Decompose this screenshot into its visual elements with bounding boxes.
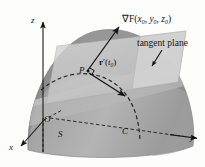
gradient-label: ∇F(x0, y0, z0) [122, 15, 171, 26]
origin-label: O [44, 115, 51, 124]
gradient-symbol: ∇F [122, 14, 134, 24]
tangent-plane-diagram: z y x O S C P ∇F(x0, y0, z0) tangent pla… [0, 0, 205, 167]
point-label-p: P [79, 66, 85, 75]
axis-label-y: y [190, 133, 194, 142]
curve-label-c: C [122, 127, 128, 136]
tangent-plane-label: tangent plane [137, 39, 188, 49]
tangent-vector-label: r′(t0) [99, 58, 116, 68]
diagram-canvas [0, 0, 205, 167]
gradient-paren-close: ) [168, 14, 171, 24]
axis-label-x: x [9, 143, 13, 152]
surface-label-s: S [58, 130, 63, 139]
axis-label-z: z [31, 16, 35, 25]
point-p-dot [87, 70, 90, 73]
tangent-vector-close: ) [113, 57, 116, 67]
